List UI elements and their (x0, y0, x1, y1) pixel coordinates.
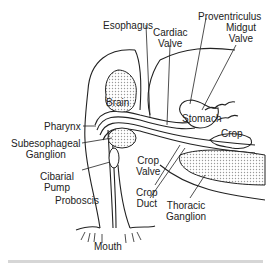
label-cibarial-pump: Cibarial Pump (40, 171, 74, 193)
subesophageal-ganglion-shape (108, 128, 136, 148)
label-midgut-valve: Midgut Valve (226, 22, 256, 44)
label-stomach: Stomach (182, 113, 221, 124)
label-pharynx: Pharynx (44, 121, 81, 132)
label-proventriculus: Proventriculus (198, 11, 261, 22)
label-crop: Crop (221, 128, 243, 139)
label-subesophageal-ganglion: Subesophageal Ganglion (11, 138, 81, 160)
label-proboscis: Proboscis (55, 195, 99, 206)
label-crop-duct: Crop Duct (136, 187, 158, 209)
label-cardiac-valve: Cardiac Valve (153, 27, 187, 49)
label-thoracic-ganglion: Thoracic Ganglion (166, 200, 206, 222)
label-crop-valve: Crop Valve (136, 155, 160, 177)
label-mouth: Mouth (94, 241, 122, 252)
cibarial-pump-shape (109, 148, 119, 168)
figure-caption-cutoff (8, 257, 263, 266)
thoracic-ganglion-shape (179, 150, 265, 185)
label-esophagus: Esophagus (103, 20, 153, 31)
label-brain: Brain (106, 97, 129, 108)
thorax-outline (160, 48, 235, 60)
